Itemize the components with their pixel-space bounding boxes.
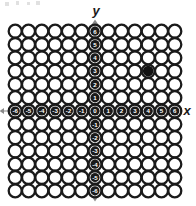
circle-inner bbox=[171, 147, 180, 156]
lattice-point bbox=[22, 144, 35, 157]
circle-inner bbox=[104, 187, 113, 196]
lattice-point bbox=[128, 51, 141, 64]
lattice-point bbox=[102, 91, 115, 104]
tick-label-text: -2 bbox=[92, 134, 98, 141]
lattice-point bbox=[168, 51, 181, 64]
lattice-point bbox=[155, 38, 168, 51]
lattice-point bbox=[142, 131, 155, 144]
y-tick--3: -3 bbox=[90, 146, 99, 155]
lattice-point bbox=[102, 131, 115, 144]
circle-inner bbox=[77, 133, 86, 142]
x-tick--6: -6 bbox=[11, 106, 20, 115]
circle-inner bbox=[104, 40, 113, 49]
circle-inner bbox=[51, 147, 60, 156]
tick-label-text: -6 bbox=[92, 187, 98, 194]
lattice-point bbox=[62, 91, 75, 104]
lattice-point bbox=[22, 65, 35, 78]
lattice-point bbox=[9, 184, 22, 197]
lattice-point bbox=[128, 118, 141, 131]
circle-inner bbox=[24, 40, 33, 49]
circle-inner bbox=[131, 40, 140, 49]
y-axis-label: y bbox=[91, 3, 100, 18]
lattice-point bbox=[155, 158, 168, 171]
lattice-point bbox=[155, 184, 168, 197]
circle-inner bbox=[171, 160, 180, 169]
circle-inner bbox=[117, 120, 126, 129]
lattice-point bbox=[75, 158, 88, 171]
circle-inner bbox=[157, 27, 166, 36]
circle-inner bbox=[77, 120, 86, 129]
circle-inner bbox=[11, 187, 20, 196]
circle-inner bbox=[51, 120, 60, 129]
circle-inner bbox=[77, 67, 86, 76]
lattice-point bbox=[155, 51, 168, 64]
lattice-point bbox=[75, 38, 88, 51]
circle-inner bbox=[64, 93, 73, 102]
circle-inner bbox=[64, 54, 73, 63]
lattice-point bbox=[62, 184, 75, 197]
lattice-point bbox=[62, 131, 75, 144]
x-tick--1: -1 bbox=[77, 106, 86, 115]
lattice-point bbox=[9, 51, 22, 64]
circle-inner bbox=[51, 93, 60, 102]
tick-label-text: 0 bbox=[93, 107, 97, 114]
circle-inner bbox=[157, 160, 166, 169]
x-tick--4: -4 bbox=[37, 106, 46, 115]
circle-inner bbox=[131, 27, 140, 36]
lattice-point bbox=[9, 158, 22, 171]
circle-inner bbox=[38, 160, 47, 169]
lattice-point bbox=[35, 118, 48, 131]
scan-speck-3 bbox=[27, 2, 30, 5]
lattice-point bbox=[115, 184, 128, 197]
x-tick-0: 0 bbox=[90, 106, 99, 115]
circle-inner bbox=[131, 80, 140, 89]
circle-inner bbox=[24, 187, 33, 196]
lattice-point bbox=[102, 171, 115, 184]
lattice-point bbox=[155, 144, 168, 157]
y-tick--1: -1 bbox=[90, 120, 99, 129]
circle-inner bbox=[11, 147, 20, 156]
circle-inner bbox=[11, 120, 20, 129]
tick-label-text: 3 bbox=[93, 67, 97, 74]
x-tick--2: -2 bbox=[64, 106, 73, 115]
circle-inner bbox=[104, 173, 113, 182]
circle-inner bbox=[77, 93, 86, 102]
lattice-point bbox=[102, 184, 115, 197]
circle-inner bbox=[64, 27, 73, 36]
circle-inner bbox=[117, 93, 126, 102]
lattice-point bbox=[9, 91, 22, 104]
y-tick-4: 4 bbox=[90, 53, 99, 62]
circle-inner bbox=[11, 160, 20, 169]
circle-inner bbox=[157, 67, 166, 76]
lattice-point bbox=[128, 78, 141, 91]
y-tick-3: 3 bbox=[90, 67, 99, 76]
circle-inner bbox=[117, 133, 126, 142]
circle-inner bbox=[104, 133, 113, 142]
y-tick--5: -5 bbox=[90, 173, 99, 182]
lattice-point bbox=[62, 118, 75, 131]
circle-inner bbox=[144, 187, 153, 196]
lattice-point bbox=[115, 78, 128, 91]
tick-label-text: -5 bbox=[92, 174, 98, 181]
lattice-point bbox=[155, 118, 168, 131]
circle-inner bbox=[131, 120, 140, 129]
coordinate-grid-figure: -6-5-4-3-2-10123456654321-1-2-3-4-5-6xy bbox=[0, 0, 196, 206]
lattice-point bbox=[75, 51, 88, 64]
lattice-point bbox=[142, 144, 155, 157]
circle-inner bbox=[77, 54, 86, 63]
tick-label-text: -2 bbox=[66, 107, 72, 114]
lattice-point bbox=[155, 91, 168, 104]
circle-inner bbox=[144, 133, 153, 142]
lattice-point bbox=[49, 65, 62, 78]
lattice-point bbox=[142, 78, 155, 91]
lattice-point bbox=[62, 65, 75, 78]
tick-label-text: 5 bbox=[93, 41, 97, 48]
circle-inner bbox=[117, 187, 126, 196]
tick-label-text: 6 bbox=[173, 107, 177, 114]
circle-inner bbox=[144, 93, 153, 102]
lattice-point bbox=[49, 131, 62, 144]
x-tick-6: 6 bbox=[170, 106, 179, 115]
x-tick--5: -5 bbox=[24, 106, 33, 115]
circle-inner bbox=[77, 160, 86, 169]
lattice-point bbox=[168, 65, 181, 78]
